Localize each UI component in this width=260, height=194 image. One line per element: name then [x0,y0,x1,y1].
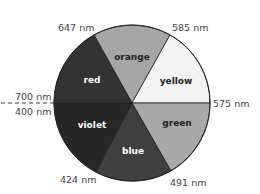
wavelength-424: 424 nm [60,174,96,185]
wavelength-491: 491 nm [170,177,206,188]
wavelength-585: 585 nm [172,22,208,33]
segment-label-green: green [162,118,192,128]
segment-label-blue: blue [122,146,144,156]
color-wheel-diagram: orange yellow green blue violet red 647 … [0,0,260,194]
wavelength-575: 575 nm [213,98,249,109]
segment-label-orange: orange [114,52,150,62]
wavelength-647: 647 nm [58,22,94,33]
segment-label-yellow: yellow [160,76,193,86]
wavelength-700: 700 nm [15,91,51,102]
segment-label-red: red [84,75,101,85]
segment-label-violet: violet [78,120,107,130]
wavelength-400: 400 nm [15,106,51,117]
